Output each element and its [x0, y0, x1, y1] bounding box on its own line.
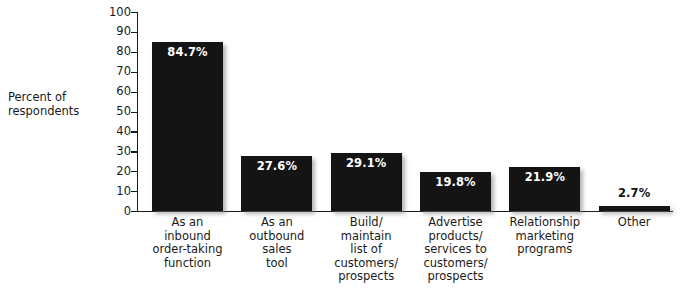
y-tick-label-70: 70: [97, 66, 131, 77]
y-axis-line: [137, 12, 138, 211]
y-tick-mark-90: [131, 32, 137, 33]
y-tick-label-20: 20: [97, 166, 131, 177]
y-tick-mark-100: [131, 12, 137, 13]
y-axis-title-line-2: respondents: [8, 104, 100, 118]
y-tick-label-10: 10: [97, 186, 131, 197]
category-label-line: prospects: [404, 270, 508, 284]
y-tick-mark-70: [131, 72, 137, 73]
y-tick-mark-50: [131, 112, 137, 113]
bar-value-label: 27.6%: [241, 159, 312, 173]
y-tick-label-90: 90: [97, 26, 131, 37]
bar-group[interactable]: 2.7%: [599, 12, 670, 211]
y-axis-title-line-1: Percent of: [8, 90, 100, 104]
y-tick-label-50: 50: [97, 106, 131, 117]
y-axis-title: Percent of respondents: [8, 90, 100, 118]
y-tick-label-80: 80: [97, 46, 131, 57]
bar-group[interactable]: 21.9%: [509, 12, 580, 211]
plot-area: 84.7%27.6%29.1%19.8%21.9%2.7%: [137, 12, 673, 211]
bar-group[interactable]: 84.7%: [152, 12, 223, 211]
bar-group[interactable]: 19.8%: [420, 12, 491, 211]
bar[interactable]: [599, 206, 670, 211]
bar-value-label: 29.1%: [331, 156, 402, 170]
y-tick-mark-30: [131, 151, 137, 152]
x-axis-line: [137, 211, 673, 212]
category-label-line: Other: [582, 216, 681, 230]
chart-title-cutoff: [18, 0, 658, 3]
category-label: Other: [582, 216, 681, 230]
y-tick-label-0: 0: [97, 206, 131, 217]
bar-group[interactable]: 27.6%: [241, 12, 312, 211]
y-tick-mark-80: [131, 52, 137, 53]
bar-group[interactable]: 29.1%: [331, 12, 402, 211]
y-tick-label-100: 100: [97, 7, 131, 18]
y-tick-mark-40: [131, 131, 137, 132]
y-tick-mark-10: [131, 191, 137, 192]
category-label-line: customers/: [404, 257, 508, 271]
y-tick-label-40: 40: [97, 126, 131, 137]
bar-chart: Percent of respondents 10090807060504030…: [0, 0, 681, 295]
y-tick-mark-0: [131, 211, 137, 212]
y-tick-label-30: 30: [97, 146, 131, 157]
category-label-line: programs: [493, 243, 597, 257]
bar[interactable]: [152, 42, 223, 211]
bar-value-label: 2.7%: [599, 186, 670, 200]
bar-value-label: 84.7%: [152, 45, 223, 59]
bar-value-label: 21.9%: [509, 170, 580, 184]
y-tick-mark-60: [131, 92, 137, 93]
y-tick-label-60: 60: [97, 86, 131, 97]
y-axis-tick-labels: 1009080706050403020100: [95, 12, 131, 211]
category-label-line: marketing: [493, 230, 597, 244]
y-tick-mark-20: [131, 171, 137, 172]
bar-value-label: 19.8%: [420, 175, 491, 189]
